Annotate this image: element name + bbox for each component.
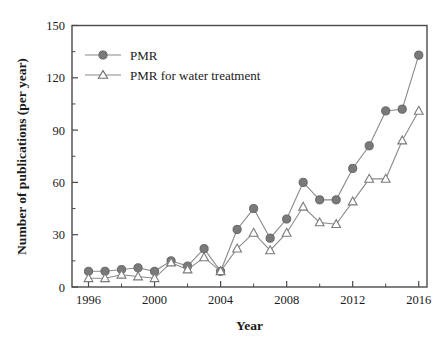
x-tick-label: 2016 xyxy=(406,293,431,307)
data-point-marker-circle xyxy=(316,196,324,204)
data-point-marker-circle xyxy=(349,164,357,172)
x-tick-label: 2008 xyxy=(274,293,299,307)
data-point-marker-circle xyxy=(415,51,423,59)
publications-line-chart: 0306090120150 199620002004200820122016 P… xyxy=(0,0,447,345)
legend-label-pmr-water: PMR for water treatment xyxy=(130,68,261,83)
data-point-marker-circle xyxy=(365,142,373,150)
data-point-marker-circle xyxy=(233,225,241,233)
y-tick-label: 0 xyxy=(59,281,65,295)
filled-circle-icon xyxy=(99,51,107,59)
y-tick-label: 120 xyxy=(46,71,65,85)
data-point-marker-circle xyxy=(332,196,340,204)
y-tick-label: 60 xyxy=(53,176,66,190)
data-point-marker-circle xyxy=(398,105,406,113)
data-point-marker-circle xyxy=(200,245,208,253)
x-tick-label: 2012 xyxy=(340,293,365,307)
x-tick-label: 1996 xyxy=(76,293,101,307)
data-point-marker-circle xyxy=(283,215,291,223)
legend-label-pmr: PMR xyxy=(130,48,158,63)
y-tick-label: 90 xyxy=(53,124,66,138)
data-point-marker-circle xyxy=(266,234,274,242)
data-point-marker-circle xyxy=(382,107,390,115)
data-point-marker-circle xyxy=(134,264,142,272)
x-tick-label: 2004 xyxy=(208,293,234,307)
x-axis-title: Year xyxy=(236,318,263,333)
x-tick-label: 2000 xyxy=(142,293,167,307)
y-tick-label: 30 xyxy=(53,228,66,242)
y-axis-title: Number of publications (per year) xyxy=(14,58,29,255)
y-tick-label: 150 xyxy=(46,19,65,33)
data-point-marker-circle xyxy=(299,178,307,186)
data-point-marker-circle xyxy=(250,204,258,212)
